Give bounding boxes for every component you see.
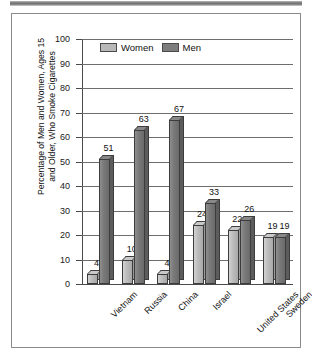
- screenshot-root: Percentage of Men and Women, Ages 15 and…: [0, 0, 312, 360]
- bar-value-label: 26: [239, 205, 260, 214]
- bar-men-united-states: [240, 220, 251, 284]
- y-axis-tick-label: 20: [44, 231, 70, 240]
- bar-men-china: [169, 120, 180, 284]
- x-axis-label-israel: Israel: [212, 290, 234, 312]
- y-axis-tick-label-wrap: 20: [40, 231, 70, 240]
- y-axis-tick-label-wrap: 0: [40, 280, 70, 289]
- y-axis-tick-label-wrap: 60: [40, 133, 70, 142]
- bar-side-face: [110, 155, 114, 280]
- y-axis-tick-label: 100: [44, 35, 70, 44]
- y-axis-tick-label-wrap: 100: [40, 35, 70, 44]
- bar-front-face: [263, 237, 274, 284]
- bar-women-united-states: [228, 230, 239, 284]
- bar-front-face: [157, 274, 168, 284]
- bar-value-label: 19: [274, 222, 295, 231]
- x-axis-label-russia: Russia: [143, 290, 169, 316]
- bar-front-face: [240, 220, 251, 284]
- bar-value-label: 51: [98, 144, 119, 153]
- y-axis-tick-label-wrap: 90: [40, 60, 70, 69]
- y-axis-tick-label-wrap: 10: [40, 256, 70, 265]
- bar-front-face: [275, 237, 286, 284]
- x-axis-labels-group: VietnamRussiaChinaIsraelUnited StatesSwe…: [82, 286, 293, 348]
- y-axis-tick-label: 40: [44, 182, 70, 191]
- top-banner-decoration: [10, 1, 302, 6]
- y-axis-tick-label: 0: [44, 280, 70, 289]
- bar-front-face: [134, 130, 145, 284]
- bar-women-sweden: [263, 237, 274, 284]
- bar-men-israel: [205, 203, 216, 284]
- x-axis-label-vietnam: Vietnam: [109, 290, 139, 320]
- y-axis-tick-label: 50: [44, 158, 70, 167]
- bar-front-face: [122, 260, 133, 285]
- y-axis-tick-label: 60: [44, 133, 70, 142]
- bar-front-face: [228, 230, 239, 284]
- y-axis-tick-label: 10: [44, 256, 70, 265]
- bar-front-face: [193, 225, 204, 284]
- bar-women-israel: [193, 225, 204, 284]
- y-axis-tick-label: 30: [44, 207, 70, 216]
- bar-women-vietnam: [87, 274, 98, 284]
- bar-side-face: [216, 199, 220, 280]
- bar-women-china: [157, 274, 168, 284]
- bar-side-face: [286, 233, 290, 280]
- y-axis-tick-label-wrap: 70: [40, 109, 70, 118]
- bar-front-face: [99, 159, 110, 284]
- y-axis-tick-label: 90: [44, 60, 70, 69]
- bar-men-russia: [134, 130, 145, 284]
- bar-value-label: 63: [133, 115, 154, 124]
- y-axis-tick-label: 70: [44, 109, 70, 118]
- bar-men-sweden: [275, 237, 286, 284]
- bar-value-label: 67: [168, 105, 189, 114]
- bar-men-vietnam: [99, 159, 110, 284]
- bar-side-face: [251, 216, 255, 280]
- bar-side-face: [180, 116, 184, 280]
- bar-chart: Percentage of Men and Women, Ages 15 and…: [12, 14, 302, 349]
- y-axis-tick-label-wrap: 40: [40, 182, 70, 191]
- bar-front-face: [169, 120, 180, 284]
- y-axis-tick-label-wrap: 50: [40, 158, 70, 167]
- y-axis-tick-label: 80: [44, 84, 70, 93]
- y-axis-tick-label-wrap: 80: [40, 84, 70, 93]
- bar-side-face: [145, 126, 149, 280]
- bar-front-face: [205, 203, 216, 284]
- x-axis-label-china: China: [177, 290, 200, 313]
- figure-frame: Percentage of Men and Women, Ages 15 and…: [11, 13, 301, 348]
- bars-group: 4511063467243322261919: [82, 39, 293, 285]
- y-axis-tick-label-wrap: 30: [40, 207, 70, 216]
- bar-women-russia: [122, 260, 133, 285]
- bar-value-label: 33: [204, 188, 225, 197]
- bar-front-face: [87, 274, 98, 284]
